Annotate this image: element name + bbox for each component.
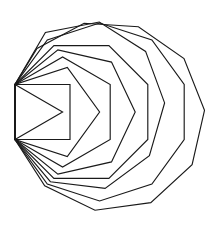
geometric-figure-canvas: [0, 0, 220, 230]
nested-polygons-diagram: [0, 0, 220, 230]
